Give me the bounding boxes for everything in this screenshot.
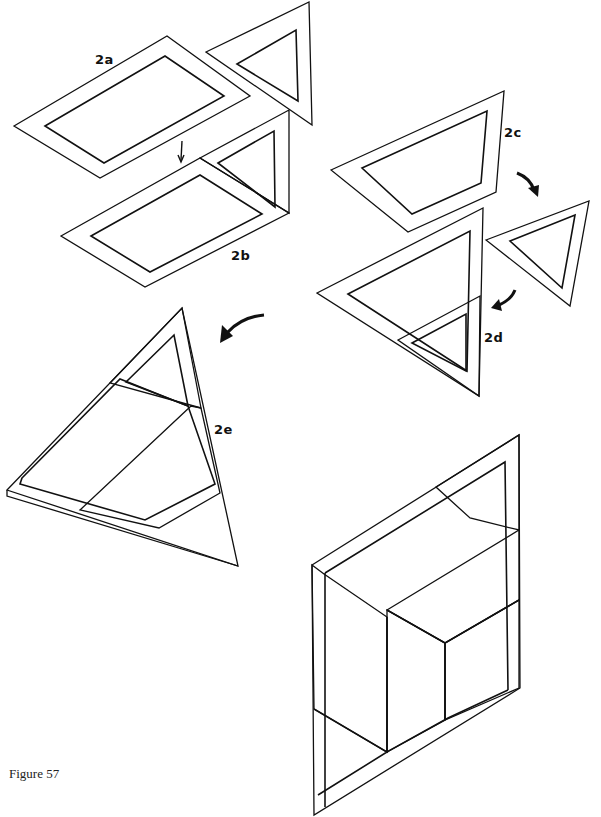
- foam-section-2e: [80, 406, 220, 528]
- step-2d: [317, 208, 483, 396]
- label-2a: 2a: [95, 52, 114, 67]
- foam-center-column: [387, 610, 445, 752]
- curved-arrow-icon: [220, 315, 264, 343]
- label-2c: 2c: [504, 125, 522, 140]
- triangle-piece-2a: [206, 2, 312, 125]
- label-2e: 2e: [214, 422, 233, 437]
- parallelogram-piece-2b: [61, 158, 289, 287]
- step-2a: [14, 2, 312, 178]
- label-2d: 2d: [484, 330, 503, 345]
- curved-arrow-icon: [491, 290, 515, 311]
- final-assembly: [312, 435, 520, 815]
- large-triangle-2e: [7, 308, 238, 566]
- stipple-top-right: [436, 435, 519, 530]
- curved-arrow-icon: [517, 173, 539, 197]
- arrow-down-icon: [178, 141, 184, 162]
- rhombus-outline: [312, 435, 520, 815]
- label-2b: 2b: [231, 248, 250, 263]
- figure-caption: Figure 57: [9, 766, 59, 782]
- foam-upper-band: [387, 530, 519, 643]
- stipple-left-face: [312, 565, 387, 752]
- assembly-diagram: [0, 0, 601, 817]
- step-2e: [7, 308, 238, 566]
- small-triangle-piece: [486, 201, 589, 306]
